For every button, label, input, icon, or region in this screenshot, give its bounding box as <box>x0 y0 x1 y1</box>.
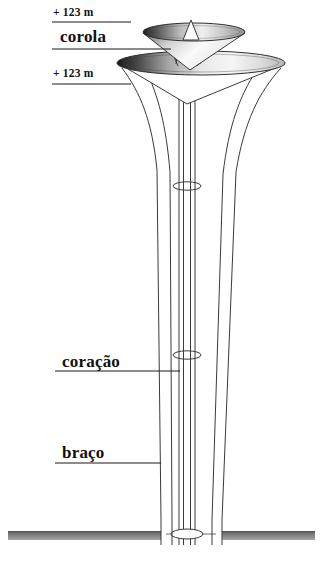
arm-outer-right <box>222 68 281 520</box>
tower-elevation-diagram: + 123 m corola + 123 m coração braço <box>0 0 323 563</box>
label-elevation-top: + 123 m <box>53 6 94 18</box>
ground-line-right <box>222 531 315 540</box>
core-ring-lower <box>173 351 201 359</box>
label-corola: corola <box>60 27 106 47</box>
arm-inner-right <box>212 71 256 520</box>
clipped-caption <box>0 556 323 563</box>
label-coracao: coração <box>62 352 120 372</box>
arm-outer-left <box>122 68 161 520</box>
ground-line-left <box>8 531 161 540</box>
tower-shaft-group <box>8 20 315 545</box>
tower-drawing <box>0 0 323 563</box>
label-elevation-mid: + 123 m <box>53 67 94 79</box>
label-braco: braço <box>62 443 105 463</box>
arm-inner-left <box>146 70 172 520</box>
core-ring-base <box>171 529 203 539</box>
core-ring-upper <box>173 182 201 190</box>
